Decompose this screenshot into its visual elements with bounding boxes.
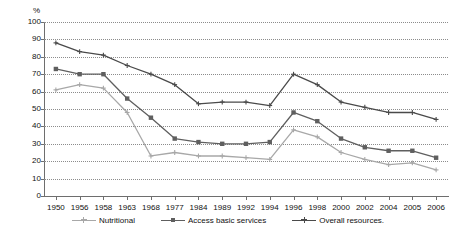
x-tick-label-1956: 1956 xyxy=(71,203,89,212)
y-tick-mark-20 xyxy=(41,161,44,162)
y-axis-unit-label: % xyxy=(33,6,40,15)
gridline-y-90 xyxy=(44,39,448,40)
x-tick-mark-2002 xyxy=(365,196,366,200)
y-tick-mark-90 xyxy=(41,39,44,40)
x-tick-label-2004: 2004 xyxy=(380,203,398,212)
y-tick-label-100: 100 xyxy=(28,18,41,26)
x-tick-mark-2004 xyxy=(389,196,390,200)
y-axis-tick-labels: 0102030405060708090100 xyxy=(16,22,41,197)
y-tick-mark-10 xyxy=(41,179,44,180)
y-tick-label-20: 20 xyxy=(32,157,41,165)
chart-legend: NutritionalAccess basic servicesOverall … xyxy=(0,213,456,227)
x-tick-mark-1984 xyxy=(198,196,199,200)
x-tick-mark-1968 xyxy=(151,196,152,200)
gridline-y-50 xyxy=(44,109,448,110)
legend-entry-nutritional[interactable]: Nutritional xyxy=(72,216,135,225)
x-tick-mark-1956 xyxy=(80,196,81,200)
gridline-y-100 xyxy=(44,22,448,23)
gridline-y-30 xyxy=(44,144,448,145)
legend-swatch-icon xyxy=(72,216,96,225)
x-tick-label-1958: 1958 xyxy=(95,203,113,212)
x-tick-mark-2005 xyxy=(412,196,413,200)
y-tick-label-40: 40 xyxy=(32,122,41,130)
x-tick-mark-2006 xyxy=(436,196,437,200)
gridline-y-70 xyxy=(44,74,448,75)
legend-label: Access basic services xyxy=(188,216,266,225)
x-tick-mark-1989 xyxy=(222,196,223,200)
legend-entry-access-basic-services[interactable]: Access basic services xyxy=(161,216,266,225)
x-tick-label-1968: 1968 xyxy=(142,203,160,212)
x-tick-mark-1996 xyxy=(294,196,295,200)
legend-swatch-icon xyxy=(161,216,185,225)
x-tick-label-1992: 1992 xyxy=(237,203,255,212)
x-tick-label-1989: 1989 xyxy=(213,203,231,212)
x-tick-mark-1992 xyxy=(246,196,247,200)
y-tick-mark-80 xyxy=(41,57,44,58)
x-tick-label-2006: 2006 xyxy=(427,203,445,212)
x-tick-mark-2000 xyxy=(341,196,342,200)
y-tick-mark-100 xyxy=(41,22,44,23)
gridline-y-10 xyxy=(44,179,448,180)
gridline-y-80 xyxy=(44,57,448,58)
y-tick-label-50: 50 xyxy=(32,105,41,113)
x-tick-label-2005: 2005 xyxy=(403,203,421,212)
legend-label: Overall resources. xyxy=(319,216,384,225)
gridline-y-20 xyxy=(44,161,448,162)
y-tick-label-60: 60 xyxy=(32,88,41,96)
y-tick-mark-0 xyxy=(41,196,44,197)
y-tick-mark-70 xyxy=(41,74,44,75)
legend-entry-overall-resources[interactable]: Overall resources. xyxy=(292,216,384,225)
gridline-y-40 xyxy=(44,126,448,127)
legend-swatch-icon xyxy=(292,216,316,225)
y-tick-mark-40 xyxy=(41,126,44,127)
x-tick-label-1998: 1998 xyxy=(308,203,326,212)
x-tick-mark-1977 xyxy=(175,196,176,200)
x-tick-mark-1950 xyxy=(56,196,57,200)
x-tick-label-2000: 2000 xyxy=(332,203,350,212)
x-tick-mark-1994 xyxy=(270,196,271,200)
line-chart: % 0102030405060708090100 NutritionalAcce… xyxy=(0,0,456,233)
x-tick-label-1963: 1963 xyxy=(118,203,136,212)
x-tick-mark-1998 xyxy=(317,196,318,200)
y-tick-label-70: 70 xyxy=(32,70,41,78)
x-tick-label-1977: 1977 xyxy=(166,203,184,212)
x-tick-label-1950: 1950 xyxy=(47,203,65,212)
y-tick-label-90: 90 xyxy=(32,35,41,43)
y-tick-label-10: 10 xyxy=(32,175,41,183)
x-tick-mark-1958 xyxy=(103,196,104,200)
x-tick-label-1996: 1996 xyxy=(285,203,303,212)
plot-area xyxy=(44,22,448,196)
legend-label: Nutritional xyxy=(99,216,135,225)
y-tick-mark-50 xyxy=(41,109,44,110)
x-tick-label-2002: 2002 xyxy=(356,203,374,212)
gridline-y-60 xyxy=(44,92,448,93)
x-tick-mark-1963 xyxy=(127,196,128,200)
y-tick-label-80: 80 xyxy=(32,53,41,61)
y-tick-label-30: 30 xyxy=(32,140,41,148)
y-tick-mark-60 xyxy=(41,92,44,93)
y-tick-mark-30 xyxy=(41,144,44,145)
x-tick-label-1984: 1984 xyxy=(190,203,208,212)
x-tick-label-1994: 1994 xyxy=(261,203,279,212)
